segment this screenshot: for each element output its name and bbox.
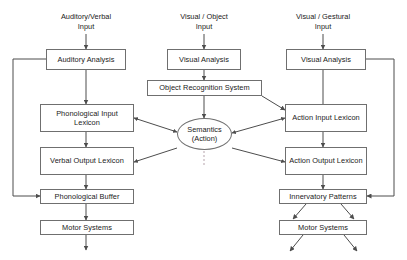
input-label-visual-gestural: Visual / Gestural Input <box>272 12 374 31</box>
edge-action-input-to-semantics <box>232 118 285 133</box>
edge-motor-systems-right-to-output-a <box>290 235 303 251</box>
node-visual-analysis-object[interactable]: Visual Analysis <box>167 49 241 70</box>
node-innervatory-patterns-label: Innervatory Patterns <box>287 192 359 201</box>
node-auditory-analysis-label: Auditory Analysis <box>55 55 116 64</box>
diagram-canvas: Auditory/Verbal Input Visual / Object In… <box>0 0 407 260</box>
node-motor-systems-left[interactable]: Motor Systems <box>40 220 134 235</box>
node-object-recognition-system-label: Object Recognition System <box>157 83 251 92</box>
input-label-visual-object: Visual / Object Input <box>154 12 254 31</box>
input-label-auditory-verbal-line1: Auditory/Verbal <box>36 12 136 22</box>
node-semantics-sublabel: (Action) <box>187 134 222 143</box>
edge-innervatory-to-motor-systems-right-b <box>341 204 354 219</box>
input-label-visual-object-line1: Visual / Object <box>154 12 254 22</box>
node-semantics[interactable]: Semantics (Action) <box>177 118 232 150</box>
input-label-visual-gestural-line2: Input <box>272 22 374 32</box>
node-motor-systems-right-label: Motor Systems <box>296 223 350 232</box>
node-auditory-analysis[interactable]: Auditory Analysis <box>46 49 126 70</box>
edge-innervatory-to-motor-systems-right-a <box>293 204 306 219</box>
node-verbal-output-lexicon-label: Verbal Output Lexicon <box>48 156 126 165</box>
node-innervatory-patterns[interactable]: Innervatory Patterns <box>279 189 367 204</box>
edge-object-recognition-to-action-input <box>262 96 285 110</box>
edge-visual-analysis-gestural-to-innervatory-loop <box>366 59 394 196</box>
node-motor-systems-left-label: Motor Systems <box>60 223 114 232</box>
node-object-recognition-system[interactable]: Object Recognition System <box>147 80 262 96</box>
edge-semantics-to-action-output <box>232 148 285 162</box>
node-phonological-buffer-label: Phonological Buffer <box>53 192 122 201</box>
node-phonological-buffer[interactable]: Phonological Buffer <box>40 189 134 204</box>
node-phonological-input-lexicon-label: Phonological Input Lexicon <box>41 109 133 127</box>
node-visual-analysis-gestural-label: Visual Analysis <box>299 55 353 64</box>
node-action-input-lexicon[interactable]: Action Input Lexicon <box>285 104 367 132</box>
input-label-visual-object-line2: Input <box>154 22 254 32</box>
edge-motor-systems-right-to-output-b <box>344 235 357 251</box>
node-semantics-label: Semantics <box>187 125 222 134</box>
input-label-auditory-verbal-line2: Input <box>36 22 136 32</box>
node-action-output-lexicon-label: Action Output Lexicon <box>287 156 364 165</box>
node-visual-analysis-gestural[interactable]: Visual Analysis <box>286 49 366 70</box>
node-action-input-lexicon-label: Action Input Lexicon <box>290 113 362 122</box>
node-motor-systems-right[interactable]: Motor Systems <box>279 220 367 235</box>
input-label-auditory-verbal: Auditory/Verbal Input <box>36 12 136 31</box>
edge-semantics-to-verbal-output <box>134 148 177 162</box>
node-verbal-output-lexicon[interactable]: Verbal Output Lexicon <box>40 147 134 175</box>
input-label-visual-gestural-line1: Visual / Gestural <box>272 12 374 22</box>
node-action-output-lexicon[interactable]: Action Output Lexicon <box>285 147 367 175</box>
edge-phono-input-to-semantics <box>134 118 177 132</box>
node-phonological-input-lexicon[interactable]: Phonological Input Lexicon <box>40 104 134 132</box>
node-visual-analysis-object-label: Visual Analysis <box>177 55 231 64</box>
